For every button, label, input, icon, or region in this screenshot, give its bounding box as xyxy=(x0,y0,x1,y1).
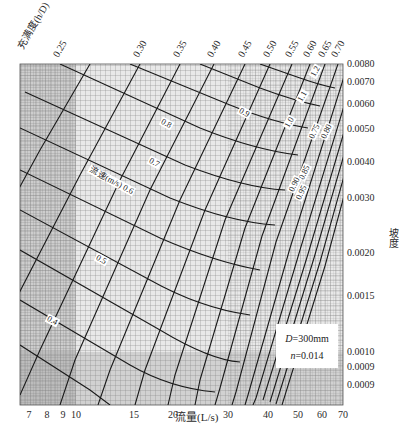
y-tick: 0.0050 xyxy=(347,123,375,134)
y-tick: 0.0060 xyxy=(347,98,375,109)
parameters-legend: DD=300mm=300mm n=0.014 xyxy=(276,324,338,368)
y-tick: 0.0015 xyxy=(347,290,375,301)
y-tick: 0.0070 xyxy=(347,76,375,87)
x-tick: 60 xyxy=(317,409,327,420)
y-tick: 0.0020 xyxy=(347,247,375,258)
y-axis-label: 坡度 xyxy=(385,228,400,248)
x-tick: 15 xyxy=(129,409,139,420)
roughness-label: n=0.014 xyxy=(277,347,337,364)
x-tick: 7 xyxy=(27,409,32,420)
y-tick: 0.0040 xyxy=(347,156,375,167)
y-tick: 0.0030 xyxy=(347,192,375,203)
x-tick: 40 xyxy=(263,409,273,420)
x-tick: 70 xyxy=(338,409,348,420)
x-tick: 30 xyxy=(223,409,233,420)
y-tick: 0.0009 xyxy=(347,379,375,390)
diameter-label: DD=300mm=300mm xyxy=(277,330,337,347)
x-axis-label: 流量(L/s) xyxy=(175,408,218,424)
y-tick: 0.0009 xyxy=(347,361,375,372)
y-tick: 0.0080 xyxy=(347,58,375,69)
x-tick: 8 xyxy=(45,409,50,420)
x-tick: 9 xyxy=(61,409,66,420)
x-tick: 50 xyxy=(293,409,303,420)
y-tick: 0.0010 xyxy=(347,346,375,357)
x-tick: 10 xyxy=(71,409,81,420)
nomograph-chart xyxy=(0,0,401,426)
